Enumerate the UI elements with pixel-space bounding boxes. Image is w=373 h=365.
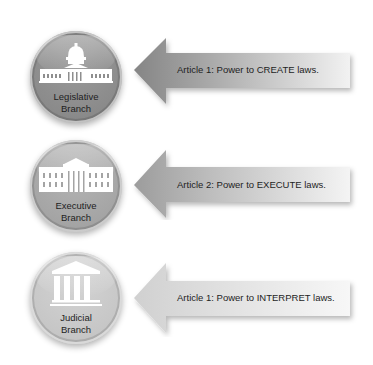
arrow-text-legislative: Article 1: Power to CREATE laws. [177,64,319,75]
judicial-branch-badge: Judicial Branch [30,252,122,344]
branch-label-line2: Branch [30,212,122,224]
legislative-row: Legislative Branch Article 1: Power to C… [0,31,373,141]
legislative-branch-badge: Legislative Branch [30,31,122,123]
branch-label-line2: Branch [30,103,122,115]
judicial-branch-label: Judicial Branch [30,312,122,336]
legislative-branch-label: Legislative Branch [30,91,122,115]
arrow-text-executive: Article 2: Power to EXECUTE laws. [177,179,326,190]
branch-label-line2: Branch [30,324,122,336]
branch-label-line1: Judicial [30,312,122,324]
executive-branch-badge: Executive Branch [30,140,122,232]
arrow-text-judicial: Article 1: Power to INTERPRET laws. [177,292,335,303]
branch-label-line1: Legislative [30,91,122,103]
branch-label-line1: Executive [30,200,122,212]
executive-row: Executive Branch Article 2: Power to EXE… [0,140,373,250]
executive-branch-label: Executive Branch [30,200,122,224]
judicial-row: Judicial Branch Article 1: Power to INTE… [0,252,373,362]
